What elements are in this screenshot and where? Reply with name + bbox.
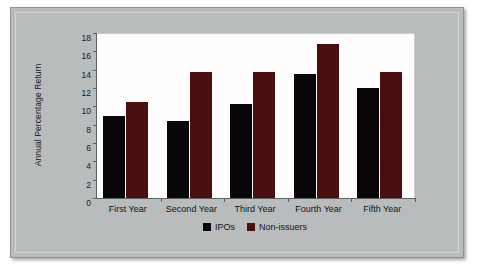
x-axis-label: Third Year xyxy=(223,204,287,214)
y-tick-mark xyxy=(93,198,97,199)
x-axis-labels: First YearSecond YearThird YearFourth Ye… xyxy=(96,204,414,218)
bar-group xyxy=(161,33,225,198)
bar-non-issuers[interactable] xyxy=(317,44,339,198)
x-tick-mark xyxy=(224,198,225,202)
x-tick-mark xyxy=(161,198,162,202)
legend-swatch-icon xyxy=(247,223,255,231)
bar-group xyxy=(288,33,352,198)
legend-item-non-issuers[interactable]: Non-issuers xyxy=(247,222,307,232)
chart-legend: IPOsNon-issuers xyxy=(96,222,414,232)
x-axis-label: Fourth Year xyxy=(287,204,351,214)
bar-ipos[interactable] xyxy=(230,104,252,198)
bar-group xyxy=(351,33,415,198)
plot-area: 024681012141618 xyxy=(96,33,415,199)
bar-non-issuers[interactable] xyxy=(190,72,212,198)
x-axis-label: Fifth Year xyxy=(350,204,414,214)
bar-ipos[interactable] xyxy=(294,74,316,198)
legend-label: Non-issuers xyxy=(259,222,307,232)
bar-group xyxy=(224,33,288,198)
x-axis-label: Second Year xyxy=(160,204,224,214)
bar-ipos[interactable] xyxy=(103,116,125,199)
legend-label: IPOs xyxy=(215,222,235,232)
scanned-page: Annual Percentage Return 024681012141618… xyxy=(0,0,480,269)
x-tick-mark xyxy=(288,198,289,202)
legend-item-ipos[interactable]: IPOs xyxy=(203,222,235,232)
bar-non-issuers[interactable] xyxy=(126,102,148,198)
bar-non-issuers[interactable] xyxy=(380,72,402,198)
bar-ipos[interactable] xyxy=(357,88,379,198)
legend-swatch-icon xyxy=(203,223,211,231)
bar-ipos[interactable] xyxy=(167,121,189,198)
x-axis-label: First Year xyxy=(96,204,160,214)
chart-figure-card: Annual Percentage Return 024681012141618… xyxy=(10,7,464,258)
x-tick-mark xyxy=(351,198,352,202)
bar-non-issuers[interactable] xyxy=(253,72,275,199)
bar-group xyxy=(97,33,161,198)
x-tick-mark xyxy=(415,198,416,202)
y-axis-title: Annual Percentage Return xyxy=(33,40,43,190)
bars-layer xyxy=(97,33,415,198)
chart-plot-wrapper: Annual Percentage Return 024681012141618… xyxy=(11,8,463,257)
